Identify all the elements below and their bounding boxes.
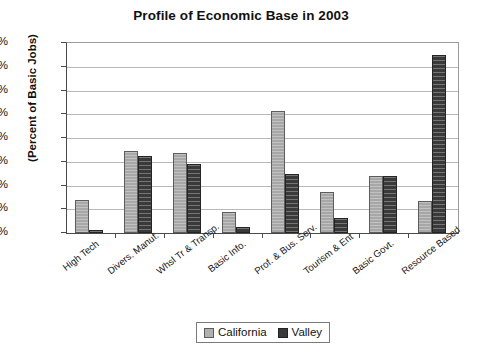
gridline — [67, 114, 458, 115]
y-tick-label: 10% — [0, 179, 8, 191]
x-category-label: Divers. Manuf. — [105, 238, 150, 276]
y-tick-label: 0% — [0, 226, 8, 238]
legend-label: California — [218, 327, 267, 339]
y-tick-label: 5% — [0, 202, 8, 214]
bar-california-3 — [222, 212, 236, 233]
gridline — [67, 138, 458, 139]
legend-swatch-valley — [278, 328, 288, 338]
x-category-label: High Tech — [57, 238, 102, 276]
x-category-label: Resource Based — [399, 238, 444, 276]
y-tick-label: 40% — [0, 36, 8, 48]
bar-california-0 — [75, 200, 89, 233]
chart-legend: CaliforniaValley — [196, 322, 330, 343]
x-category-label: Basic Govt. — [350, 238, 395, 276]
legend-label: Valley — [292, 327, 322, 339]
bar-valley-6 — [383, 176, 397, 233]
bar-valley-7 — [432, 55, 446, 233]
x-tick-mark — [408, 233, 409, 238]
gridline — [67, 91, 458, 92]
bar-california-4 — [271, 111, 285, 233]
y-tick-label: 20% — [0, 131, 8, 143]
gridline — [67, 67, 458, 68]
legend-entry-valley[interactable]: Valley — [278, 327, 322, 339]
bar-california-1 — [124, 151, 138, 233]
x-tick-mark — [262, 233, 263, 238]
y-tick-label: 30% — [0, 84, 8, 96]
bar-valley-4 — [285, 174, 299, 233]
y-tick-label: 35% — [0, 60, 8, 72]
y-tick-label: 15% — [0, 155, 8, 167]
bar-california-5 — [320, 192, 334, 233]
x-tick-mark — [359, 233, 360, 238]
x-category-label: Basic Info. — [203, 238, 248, 276]
chart-title: Profile of Economic Base in 2003 — [0, 8, 482, 23]
legend-swatch-california — [204, 328, 214, 338]
bar-california-6 — [369, 176, 383, 233]
bar-valley-1 — [138, 156, 152, 233]
x-category-label: Whsl Tr & Transp. — [154, 238, 199, 276]
x-category-label: Prof. & Bus. Serv. — [252, 238, 297, 276]
bar-california-7 — [418, 201, 432, 233]
bar-california-2 — [173, 153, 187, 233]
y-tick-label: 25% — [0, 107, 8, 119]
y-axis-label: (Percent of Basic Jobs) — [26, 3, 38, 193]
plot-area — [66, 42, 459, 234]
economic-base-bar-chart: Profile of Economic Base in 2003 (Percen… — [0, 0, 482, 361]
bar-valley-0 — [89, 230, 103, 233]
bar-valley-2 — [187, 164, 201, 233]
x-tick-mark — [115, 233, 116, 238]
x-tick-mark — [164, 233, 165, 238]
bar-valley-3 — [236, 227, 250, 233]
legend-entry-california[interactable]: California — [204, 327, 267, 339]
bar-valley-5 — [334, 218, 348, 233]
x-category-label: Tourism & Ent — [301, 238, 346, 276]
